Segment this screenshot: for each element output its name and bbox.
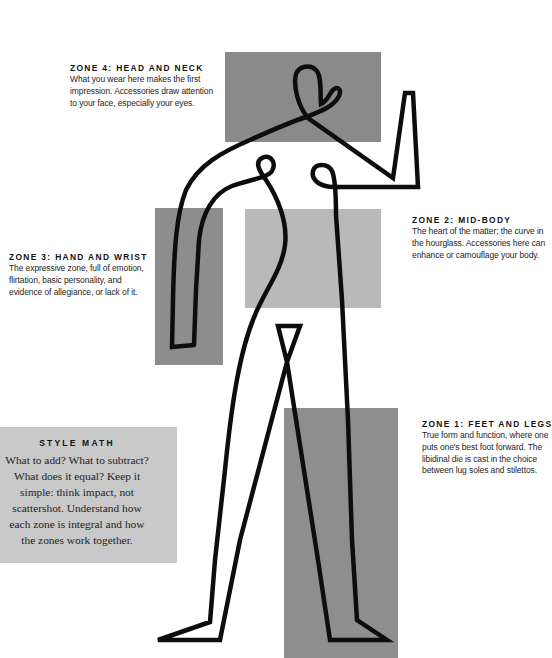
style-math-label: STYLE MATH What to add? What to subtract… <box>0 437 154 548</box>
style-math-heading: STYLE MATH <box>0 437 154 449</box>
zone-2-label: ZONE 2: MID-BODY The heart of the matter… <box>412 214 545 261</box>
style-math-text-line: each zone is integral and how <box>0 516 154 532</box>
zone-3-label: ZONE 3: HAND AND WRIST The expressive zo… <box>9 251 148 298</box>
zone-3-text-line: The expressive zone, full of emotion, <box>9 263 148 275</box>
zone-1-heading: ZONE 1: FEET AND LEGS <box>422 418 552 430</box>
zone-1-feet-rect <box>284 408 398 658</box>
style-math-text-line: What to add? What to subtract? <box>0 452 154 468</box>
zone-4-text-line: What you wear here makes the first <box>70 74 213 86</box>
zone-4-text-line: impression. Accessories draw attention <box>70 86 213 98</box>
zone-2-text-line: The heart of the matter; the curve in <box>412 226 545 238</box>
zone-2-heading: ZONE 2: MID-BODY <box>412 214 545 226</box>
style-math-text-line: What does it equal? Keep it <box>0 468 154 484</box>
zone-4-text-line: to your face, especially your eyes. <box>70 98 213 110</box>
zone-3-hand-rect <box>155 208 223 365</box>
zone-1-label: ZONE 1: FEET AND LEGS True form and func… <box>422 418 552 477</box>
zone-1-text-line: True form and function, where one <box>422 430 552 442</box>
zone-2-mid-body-rect <box>245 209 381 308</box>
zone-3-text-line: evidence of allegiance, or lack of it. <box>9 287 148 299</box>
zone-3-heading: ZONE 3: HAND AND WRIST <box>9 251 148 263</box>
zone-1-text-line: between lug soles and stilettos. <box>422 465 552 477</box>
zone-4-head-rect <box>225 52 381 142</box>
style-math-text-line: the zones work together. <box>0 532 154 548</box>
style-math-text-line: simple: think impact, not <box>0 484 154 500</box>
zone-4-heading: ZONE 4: HEAD AND NECK <box>70 62 213 74</box>
zone-2-text-line: the hourglass. Accessories here can <box>412 238 545 250</box>
zone-2-text-line: enhance or camouflage your body. <box>412 250 545 262</box>
zone-3-text-line: flirtation, basic personality, and <box>9 275 148 287</box>
zone-1-text-line: puts one's best foot forward. The <box>422 442 552 454</box>
zone-1-text-line: libidinal die is cast in the choice <box>422 454 552 466</box>
style-math-text-line: scattershot. Understand how <box>0 500 154 516</box>
zone-4-label: ZONE 4: HEAD AND NECK What you wear here… <box>70 62 213 109</box>
